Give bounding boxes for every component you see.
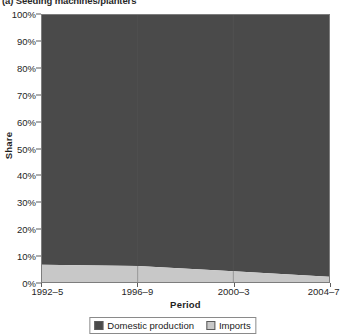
y-tick-label: 40% xyxy=(17,170,36,181)
x-tick-label: 2004–7 xyxy=(308,286,340,297)
legend-item: Domestic production xyxy=(94,320,194,331)
x-tick-mark xyxy=(137,283,138,287)
legend-swatch xyxy=(94,321,103,330)
y-tick-label: 100% xyxy=(12,9,36,20)
y-tick-label: 90% xyxy=(17,35,36,46)
y-tick-label: 30% xyxy=(17,197,36,208)
x-tick-label: 2000–3 xyxy=(218,286,250,297)
x-axis-ticks: 1992–51996–92000–32004–7 xyxy=(0,286,346,300)
x-tick-label: 1996–9 xyxy=(121,286,153,297)
area-domestic-production xyxy=(42,15,329,277)
y-tick-label: 50% xyxy=(17,143,36,154)
y-tick-label: 70% xyxy=(17,89,36,100)
y-tick-label: 20% xyxy=(17,224,36,235)
y-tick-label: 10% xyxy=(17,251,36,262)
chart-area: Share 0%10%20%30%40%50%60%70%80%90%100% … xyxy=(0,0,346,312)
y-axis-ticks: 0%10%20%30%40%50%60%70%80%90%100% xyxy=(0,14,36,283)
y-tick-label: 60% xyxy=(17,116,36,127)
legend-label: Imports xyxy=(219,320,251,331)
x-tick-mark xyxy=(234,283,235,287)
x-tick-mark xyxy=(41,283,42,287)
legend-swatch xyxy=(206,321,215,330)
legend-item: Imports xyxy=(206,320,251,331)
chart-legend: Domestic productionImports xyxy=(89,317,256,334)
y-tick-label: 80% xyxy=(17,62,36,73)
stacked-area-svg xyxy=(42,15,329,282)
legend-label: Domestic production xyxy=(107,320,194,331)
plot-area xyxy=(41,14,330,283)
x-tick-mark xyxy=(330,283,331,287)
x-tick-label: 1992–5 xyxy=(31,286,63,297)
x-axis-title: Period xyxy=(41,299,330,310)
